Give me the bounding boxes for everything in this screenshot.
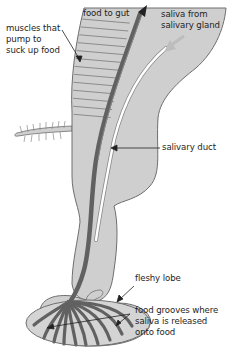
- label-food-grooves: food grooves where saliva is released on…: [135, 305, 218, 338]
- label-fleshy-lobe: fleshy lobe: [135, 273, 181, 284]
- labellum: [26, 290, 150, 346]
- label-saliva-from-gland: saliva from salivary gland: [161, 9, 220, 31]
- label-muscles: muscles that pump to suck up food: [6, 23, 60, 56]
- maxillary-palp: [15, 121, 72, 142]
- label-food-to-gut: food to gut: [83, 8, 129, 19]
- label-salivary-duct: salivary duct: [162, 142, 216, 153]
